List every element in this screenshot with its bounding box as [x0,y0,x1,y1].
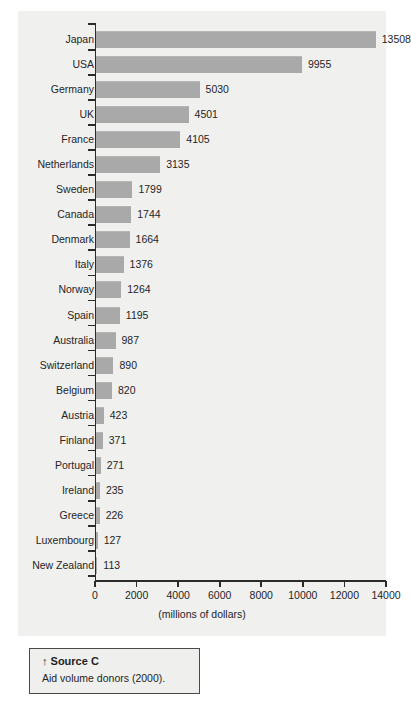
bar-value-label: 820 [118,378,136,403]
x-axis-tick [219,581,221,587]
bar-row: Sweden1799 [18,177,386,202]
bar-row: Japan13508 [18,27,386,52]
bar-track: 235 [95,478,386,503]
bar-row: Ireland235 [18,478,386,503]
up-arrow-icon: ↑ [42,655,48,667]
bar-track: 1664 [95,227,386,252]
x-axis-tick [344,581,346,587]
y-axis-tick [88,400,95,402]
bar [95,332,116,349]
y-axis-tick [88,425,95,427]
y-axis-tick [88,74,95,76]
bar-track: 226 [95,503,386,528]
bar-value-label: 1799 [138,177,161,202]
y-axis-tick [88,350,95,352]
bar-value-label: 1264 [127,277,150,302]
bar [95,256,124,273]
y-axis-tick [88,275,95,277]
bar [95,181,132,198]
x-axis-tick [260,581,262,587]
bar-row: Australia987 [18,328,386,353]
bar-track: 113 [95,553,386,578]
bar-track: 127 [95,528,386,553]
bar-value-label: 13508 [382,27,411,52]
bar-row: Switzerland890 [18,353,386,378]
bar-value-label: 271 [107,453,125,478]
bar-track: 423 [95,403,386,428]
x-axis-tick-label: 10000 [288,589,317,601]
x-axis-title: (millions of dollars) [18,608,386,620]
x-axis-tick [385,581,387,587]
source-title-label: Source C [51,655,99,667]
source-description: Aid volume donors (2000). [42,672,165,684]
y-axis-tick [88,300,95,302]
y-axis-tick [88,174,95,176]
bar-value-label: 226 [106,503,124,528]
y-axis-tick [88,149,95,151]
y-axis-tick [88,199,95,201]
bar [95,206,131,223]
bar-value-label: 1376 [130,252,153,277]
bar-track: 890 [95,353,386,378]
bar-value-label: 9955 [308,52,331,77]
chart-rows-area: Japan13508USA9955Germany5030UK4501France… [18,27,386,578]
bar-row: Germany5030 [18,77,386,102]
bar-value-label: 987 [122,328,140,353]
y-axis-tick [88,525,95,527]
y-axis-tick [88,575,95,577]
bar-track: 1744 [95,202,386,227]
bar [95,231,130,248]
bar-row: New Zealand113 [18,553,386,578]
category-label: Luxembourg [36,528,94,553]
x-axis-tick [302,581,304,587]
bar-value-label: 1664 [136,227,159,252]
x-axis-line [95,580,386,582]
bar [95,156,160,173]
y-axis-tick [88,124,95,126]
bar [95,106,189,123]
bar-row: Spain1195 [18,303,386,328]
bar-row: Netherlands3135 [18,152,386,177]
bar-track: 13508 [95,27,386,52]
bar-track: 1195 [95,303,386,328]
x-axis-tick [177,581,179,587]
y-axis-tick [88,325,95,327]
x-axis-tick-label: 0 [92,589,98,601]
chart-plot-panel: Japan13508USA9955Germany5030UK4501France… [18,11,386,636]
bar-value-label: 3135 [166,152,189,177]
y-axis-tick [88,475,95,477]
bar-value-label: 1195 [126,303,149,328]
source-title: ↑ Source C [42,655,99,667]
bar-track: 5030 [95,77,386,102]
bar-value-label: 113 [103,553,120,578]
bar-track: 1264 [95,277,386,302]
x-axis-tick [94,581,96,587]
bar [95,407,104,424]
bar-row: Belgium820 [18,378,386,403]
bar-value-label: 4105 [186,127,209,152]
y-axis-line [95,23,97,581]
y-axis-tick [88,500,95,502]
bar-row: Austria423 [18,403,386,428]
bar-track: 3135 [95,152,386,177]
bar-track: 987 [95,328,386,353]
bar-track: 9955 [95,52,386,77]
x-axis-tick-label: 14000 [371,589,400,601]
bar [95,432,103,449]
bar-row: Luxembourg127 [18,528,386,553]
bar-value-label: 890 [119,353,137,378]
bar [95,357,113,374]
y-axis-tick [88,450,95,452]
bar-row: Finland371 [18,428,386,453]
bar-track: 820 [95,378,386,403]
bar-track: 271 [95,453,386,478]
y-axis-tick [88,49,95,51]
y-axis-tick [88,375,95,377]
bar-value-label: 423 [110,403,128,428]
category-label: Switzerland [40,353,94,378]
bar-row: Portugal271 [18,453,386,478]
bar [95,281,121,298]
bar-value-label: 1744 [137,202,160,227]
category-label: Netherlands [37,152,94,177]
